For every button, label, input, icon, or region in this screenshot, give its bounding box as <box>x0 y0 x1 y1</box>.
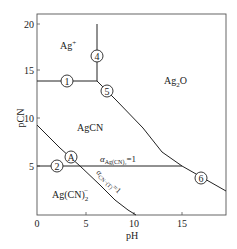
x-tick-5: 5 <box>84 218 89 229</box>
region-label-agcn: AgCN <box>77 122 103 133</box>
circle-marker-6: 6 <box>195 172 207 184</box>
y-tick-20: 20 <box>24 19 34 30</box>
circle-marker-2: 2 <box>51 160 63 172</box>
circle-marker-A: A <box>65 151 77 163</box>
svg-text:2: 2 <box>55 161 60 172</box>
pourbaix-diagram: 20 15 10 5 0 5 10 15 pH pCN 1 4 5 2 A <box>0 0 237 249</box>
svg-text:5: 5 <box>105 86 110 97</box>
circle-marker-4: 4 <box>91 50 103 62</box>
y-tick-5: 5 <box>29 161 34 172</box>
circle-marker-5: 5 <box>101 85 113 97</box>
x-axis-label: pH <box>126 230 138 241</box>
circle-marker-1: 1 <box>61 75 73 87</box>
annotation-alpha-agcn2: αAg(CN)₂=1 <box>100 154 136 166</box>
y-tick-15: 15 <box>24 65 34 76</box>
x-tick-15: 15 <box>177 218 187 229</box>
region-label-ag-plus: Ag+ <box>60 39 76 51</box>
svg-text:A: A <box>67 152 75 163</box>
y-axis-label: pCN <box>15 109 26 128</box>
boundary-lines <box>37 24 226 215</box>
svg-text:1: 1 <box>65 76 70 87</box>
svg-text:4: 4 <box>95 51 100 62</box>
x-tick-0: 0 <box>35 218 40 229</box>
region-label-agcn2-minus: Ag(CN)2− <box>52 187 89 203</box>
svg-text:6: 6 <box>199 173 204 184</box>
region-label-ag2o: Ag2O <box>164 75 187 89</box>
x-tick-10: 10 <box>129 218 139 229</box>
